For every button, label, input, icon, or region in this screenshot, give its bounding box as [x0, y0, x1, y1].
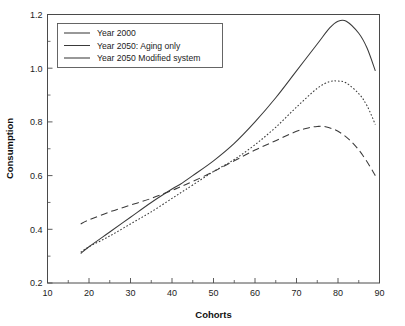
x-tick-label: 30: [125, 288, 135, 298]
y-tick-label: 0.2: [30, 278, 43, 288]
y-tick-label: 0.8: [30, 117, 43, 127]
y-tick-label: 1.0: [30, 64, 43, 74]
x-tick-label: 10: [42, 288, 52, 298]
x-tick-label: 40: [167, 288, 177, 298]
legend-label-modified-system: Year 2050 Modified system: [97, 53, 200, 63]
y-tick-label: 0.4: [30, 225, 43, 235]
x-tick-label: 50: [208, 288, 218, 298]
legend-label-year-2000: Year 2000: [97, 28, 136, 38]
chart-legend: Year 2000 Year 2050: Aging only Year 205…: [58, 24, 223, 68]
y-axis-label: Consumption: [4, 118, 15, 179]
x-axis-tick-labels: 102030405060708090: [42, 288, 384, 298]
x-axis-label: Cohorts: [195, 309, 231, 320]
x-tick-label: 80: [333, 288, 343, 298]
x-tick-label: 90: [374, 288, 384, 298]
chart-figure: 102030405060708090 0.20.40.60.81.01.2 Co…: [0, 0, 405, 326]
x-tick-label: 70: [291, 288, 301, 298]
x-tick-label: 20: [84, 288, 94, 298]
y-tick-label: 1.2: [30, 10, 43, 20]
x-tick-label: 60: [250, 288, 260, 298]
legend-label-aging-only: Year 2050: Aging only: [97, 41, 181, 51]
consumption-by-cohort-line-chart: 102030405060708090 0.20.40.60.81.01.2 Co…: [0, 0, 405, 326]
y-tick-label: 0.6: [30, 171, 43, 181]
